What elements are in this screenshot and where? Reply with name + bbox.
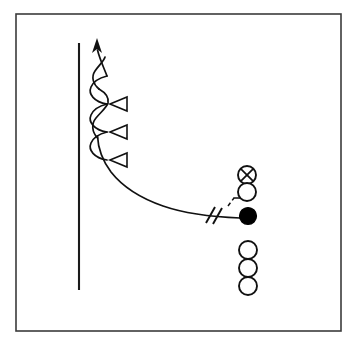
player-open-3[interactable] [239,259,257,277]
player-open-2[interactable] [239,241,257,259]
chevron-marker-3-icon [110,97,127,111]
route-stem-path [98,136,241,218]
chevron-marker-2-icon [110,125,127,139]
play-diagram-canvas [0,0,354,346]
player-x-defender[interactable] [238,166,256,184]
motion-hook-dashed [228,198,234,206]
diagram-border [16,14,341,331]
player-open-1[interactable] [238,183,256,201]
diagram-stage [0,0,354,346]
route-scallop-2-link [93,57,105,89]
player-open-4[interactable] [239,277,257,295]
chevron-marker-1-icon [110,153,127,167]
player-ball-carrier[interactable] [240,208,257,225]
route-upfield-stem [98,50,108,76]
